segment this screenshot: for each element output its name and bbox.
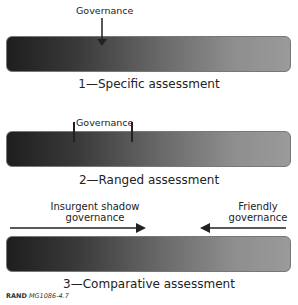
- caption-comparative: 3—Comparative assessment: [0, 277, 298, 291]
- left-arrow-icon: [200, 222, 286, 234]
- right-arrow-icon: [10, 222, 147, 234]
- governance-label: Governance: [76, 5, 126, 16]
- governance-scale-bar: [6, 36, 291, 72]
- figure-id: MG1086-4.7: [29, 292, 69, 300]
- arrow-head-icon: [96, 36, 108, 48]
- governance-scale-bar: [6, 131, 291, 167]
- governance-label: Governance: [76, 117, 130, 128]
- friendly-governance-label: Friendly governance: [218, 201, 298, 223]
- org-name: RAND: [6, 292, 27, 300]
- range-end-tick: [131, 122, 133, 142]
- insurgent-governance-label: Insurgent shadow governance: [30, 201, 160, 223]
- caption-specific: 1—Specific assessment: [0, 77, 298, 91]
- range-start-tick: [73, 122, 75, 142]
- governance-scale-bar: [6, 236, 291, 272]
- caption-ranged: 2—Ranged assessment: [0, 173, 298, 187]
- figure-credit: RAND MG1086-4.7: [6, 292, 69, 300]
